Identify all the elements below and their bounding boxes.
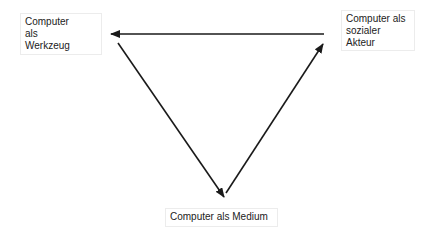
node-computer-als-medium: Computer als Medium (165, 208, 278, 227)
node-computer-als-sozialer-akteur: Computer als sozialer Akteur (341, 10, 415, 51)
arrow-medium-to-actor (226, 44, 323, 193)
arrow-tool-to-medium (118, 43, 224, 197)
node-computer-als-werkzeug: Computer als Werkzeug (20, 13, 102, 55)
